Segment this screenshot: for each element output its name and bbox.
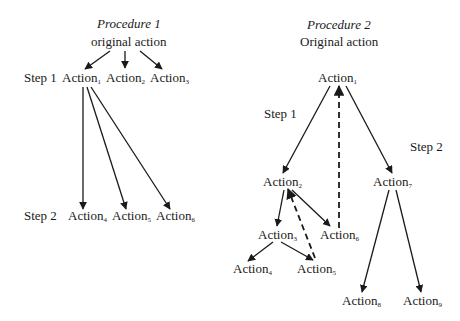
p1-action-3: Action3 xyxy=(150,71,189,89)
procedure-1-step-1: Step 1 xyxy=(24,71,57,85)
edge-a1-a6 xyxy=(91,87,170,209)
p1-action-4: Action4 xyxy=(68,209,107,227)
p2-action-5: Action5 xyxy=(297,262,336,280)
p1-action-6: Action6 xyxy=(156,209,195,227)
p2-action-4: Action4 xyxy=(233,262,272,280)
p1-action-1: Action1 xyxy=(62,71,101,89)
edge-root-a1 xyxy=(85,51,110,69)
edge-p2a1-a7 xyxy=(346,86,392,173)
p2-action-8: Action8 xyxy=(342,294,381,312)
procedure-2-title: Procedure 2 xyxy=(307,18,371,32)
p2-action-6: Action6 xyxy=(320,228,359,246)
procedure-1-step-2: Step 2 xyxy=(24,209,57,223)
procedure-2-step-2: Step 2 xyxy=(410,140,443,154)
p2-action-1: Action1 xyxy=(318,71,357,89)
edge-p2a1-a2 xyxy=(283,86,330,173)
edge-root-a3 xyxy=(140,51,162,69)
p2-action-3: Action3 xyxy=(258,228,297,246)
p2-action-9: Action9 xyxy=(403,294,442,312)
edge-p2a2-a3 xyxy=(277,190,284,226)
procedure-1-title: Procedure 1 xyxy=(97,17,161,31)
procedure-1-root: original action xyxy=(91,35,166,49)
procedure-2-step-1: Step 1 xyxy=(264,107,297,121)
p2-action-7: Action7 xyxy=(373,175,412,193)
procedure-2-root: Original action xyxy=(300,35,378,49)
edge-p2a2-a6 xyxy=(292,190,330,226)
p1-action-5: Action5 xyxy=(112,209,151,227)
edges-layer xyxy=(0,0,460,321)
edge-p2a7-a9 xyxy=(396,190,421,292)
edge-a1-a5 xyxy=(87,87,126,209)
p1-action-2: Action2 xyxy=(106,71,145,89)
p2-action-2: Action2 xyxy=(263,175,302,193)
edge-p2a7-a8 xyxy=(362,190,389,292)
